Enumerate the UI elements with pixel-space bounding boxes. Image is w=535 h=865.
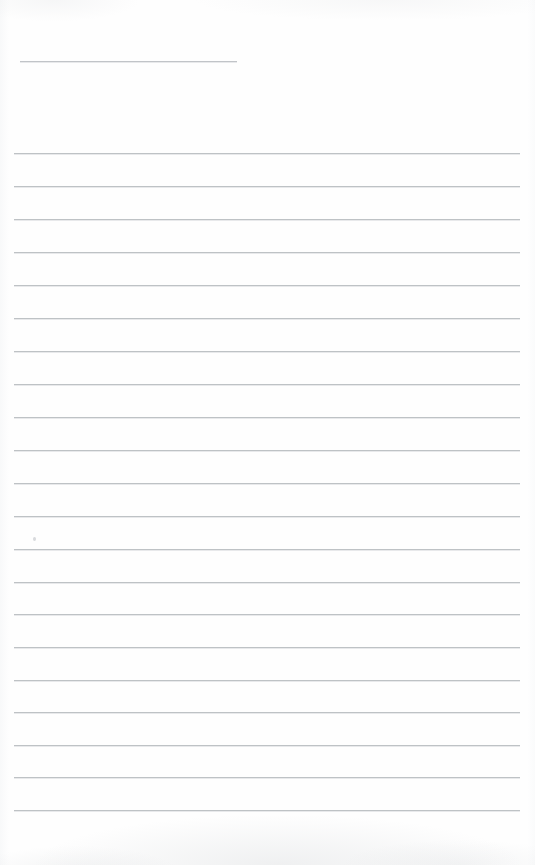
writing-area[interactable]: [14, 70, 520, 820]
notebook-page: [0, 0, 535, 865]
ruled-line-short: [20, 61, 237, 62]
